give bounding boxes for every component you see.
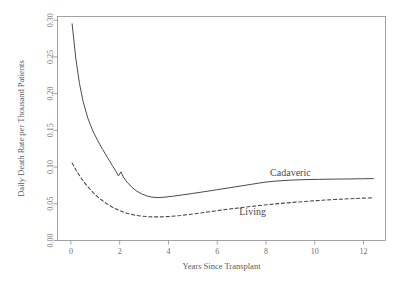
series-label-living: Living: [239, 206, 266, 217]
y-tick-label: 0.00: [46, 234, 55, 248]
chart-canvas: 0.000.050.100.150.200.250.30 024681012 C…: [0, 0, 407, 284]
x-tick-label: 4: [166, 247, 170, 256]
data-series-group: [72, 24, 373, 217]
y-tick-label: 0.20: [46, 87, 55, 101]
y-tick-label: 0.10: [46, 160, 55, 174]
series-line-living: [72, 163, 373, 217]
x-tick-label: 0: [69, 247, 73, 256]
series-line-cadaveric: [72, 24, 373, 198]
x-tick-label: 8: [264, 247, 268, 256]
x-tick-label: 2: [118, 247, 122, 256]
y-tick-label: 0.15: [46, 123, 55, 137]
plot-border: [58, 17, 386, 241]
y-tick-label: 0.25: [46, 50, 55, 64]
x-axis-title: Years Since Transplant: [182, 261, 261, 271]
x-tick-label: 10: [311, 247, 319, 256]
y-axis-ticks: 0.000.050.100.150.200.250.30: [46, 13, 58, 247]
x-tick-label: 6: [215, 247, 219, 256]
x-axis-ticks: 024681012: [69, 241, 368, 256]
series-annotations: CadavericLiving: [239, 167, 311, 217]
y-axis-title: Daily Death Rate per Thousand Patients: [16, 60, 26, 197]
plot-frame: [58, 17, 386, 241]
y-tick-label: 0.05: [46, 197, 55, 211]
x-tick-label: 12: [360, 247, 368, 256]
series-label-cadaveric: Cadaveric: [270, 167, 311, 178]
chart-figure: 0.000.050.100.150.200.250.30 024681012 C…: [0, 0, 407, 284]
y-tick-label: 0.30: [46, 13, 55, 27]
